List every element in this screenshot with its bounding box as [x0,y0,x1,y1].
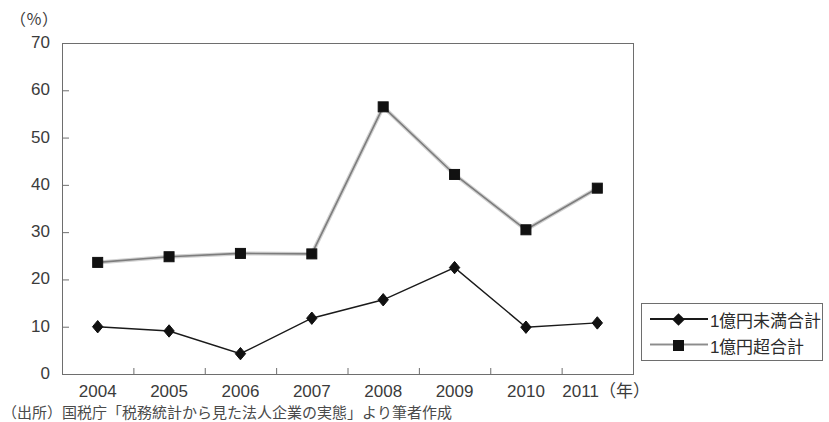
data-point-square [307,249,317,259]
y-tick-label: 30 [8,223,50,240]
y-tick-label: 10 [8,318,50,335]
y-tick-label: 60 [8,81,50,98]
data-point-square [592,183,602,193]
legend-label-under: 1億円未満合計 [710,307,821,332]
data-point-square [235,248,245,258]
data-point-diamond [92,321,102,333]
data-point-square [521,225,531,235]
data-point-square [450,169,460,179]
data-point-diamond [449,261,459,273]
data-point-square [164,252,174,262]
series-over [93,102,603,268]
x-tick-label: 2004 [63,383,133,400]
data-point-diamond [592,317,602,329]
x-tick-label: 2008 [348,383,418,400]
x-tick-label: 2006 [205,383,275,400]
chart-legend: 1億円未満合計 1億円超合計 [641,303,823,361]
series-line [98,268,598,354]
data-point-diamond [235,347,245,359]
x-tick-label: 2010 [491,383,561,400]
square-marker-icon [648,335,710,355]
legend-item-over: 1億円超合計 [648,332,804,358]
series-line-halo [98,107,598,263]
series-under [92,261,602,359]
plot-frame [63,44,634,375]
data-point-diamond [164,325,174,337]
y-tick-label: 20 [8,270,50,287]
data-point-square [378,102,388,112]
y-tick-label: 50 [8,129,50,146]
data-point-square [93,257,103,267]
data-point-diamond [307,312,317,324]
x-tick-label: 2009 [420,383,490,400]
x-tick-label: 2005 [134,383,204,400]
x-tick-label: 2011（年） [562,383,682,400]
source-note: （出所）国税庁「税務統計から見た法人企業の実態」より筆者作成 [2,401,452,422]
legend-item-under: 1億円未満合計 [648,306,821,332]
y-tick-label: 70 [8,34,50,51]
y-axis-unit-label: （％） [10,6,58,30]
x-tick-label: 2007 [277,383,347,400]
legend-label-over: 1億円超合計 [710,333,804,358]
diamond-marker-icon [648,309,710,329]
data-point-diamond [521,321,531,333]
data-point-diamond [378,294,388,306]
y-tick-label: 0 [8,365,50,382]
y-tick-label: 40 [8,176,50,193]
